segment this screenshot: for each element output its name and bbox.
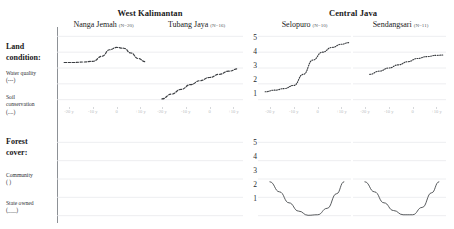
y-axis-top: 54321 <box>243 32 257 100</box>
x-axis-sendangsari: -20 y-10 y0+10 y <box>353 107 446 118</box>
panel-forest-cover-nanga-jemah <box>57 135 150 223</box>
region-heading-west-kalimantan: West Kalimantan <box>57 8 243 18</box>
y-tick-label: 2 <box>253 76 257 84</box>
row-label-land-condition: Land condition: <box>6 42 56 63</box>
x-tick-label: -10 y <box>88 110 98 115</box>
y-tick-label: 1 <box>253 91 257 99</box>
x-tick-label: 0 <box>115 110 117 115</box>
x-tick-label: -10 y <box>384 110 394 115</box>
panel-land-condition-sendangsari <box>353 30 446 106</box>
panel-plot-area <box>258 135 351 223</box>
panel-forest-cover-sendangsari <box>353 135 446 223</box>
row-label-community: Community ( ) <box>6 172 56 187</box>
y-tick-label: 5 <box>253 34 257 42</box>
x-tick-label: -10 y <box>289 110 299 115</box>
x-tick-label: -20 y <box>64 110 74 115</box>
y-tick-label: 4 <box>253 48 257 56</box>
village-sample-size: (N=20) <box>119 23 134 28</box>
x-tick-label: 0 <box>411 110 413 115</box>
x-tick-label: -10 y <box>181 110 191 115</box>
figure-small-multiples: West Kalimantan Central Java Nanga Jemah… <box>0 0 454 229</box>
village-sample-size: (N=10) <box>313 23 328 28</box>
x-tick-label: 0 <box>316 110 318 115</box>
y-tick-label: 4 <box>253 153 257 161</box>
village-name: Tubang Jaya <box>168 20 208 29</box>
x-tick-label: 0 <box>208 110 210 115</box>
x-axis-selopuro: -20 y-10 y0+10 y <box>258 107 351 118</box>
y-axis-bottom: 54321 <box>243 137 257 205</box>
row-label-water-quality: Water quality (---) <box>6 70 56 85</box>
panel-plot-area <box>57 135 150 223</box>
row-label-forest-cover: Forest cover: <box>6 137 56 158</box>
column-heading-selopuro: Selopuro (N=10) <box>258 20 351 29</box>
village-name: Selopuro <box>282 20 311 29</box>
y-tick-label: 2 <box>253 181 257 189</box>
village-sample-size: (N=11) <box>414 23 429 28</box>
village-name: Sendangsari <box>373 20 412 29</box>
series-line-solid <box>365 182 439 215</box>
x-tick-label: +10 y <box>336 110 347 115</box>
y-tick-label: 5 <box>253 139 257 147</box>
panel-forest-cover-tubang-jaya <box>150 135 243 223</box>
panel-plot-area <box>258 30 351 106</box>
x-axis-tubang-jaya: -20 y-10 y0+10 y <box>150 107 243 118</box>
x-tick-label: -20 y <box>157 110 167 115</box>
x-tick-label: +10 y <box>431 110 442 115</box>
series-line-dotted <box>265 43 348 92</box>
region-heading-central-java: Central Java <box>258 8 448 18</box>
x-tick-label: -20 y <box>265 110 275 115</box>
panel-plot-area <box>353 135 446 223</box>
village-name: Nanga Jemah <box>73 20 116 29</box>
y-tick-label: 3 <box>253 62 257 70</box>
x-tick-label: +10 y <box>228 110 239 115</box>
row-label-state-owned: State owned (___) <box>6 200 56 215</box>
column-heading-sendangsari: Sendangsari (N=11) <box>353 20 448 29</box>
series-line-solid <box>270 182 344 216</box>
series-line-dashed <box>64 47 145 62</box>
village-sample-size: (N=16) <box>210 23 225 28</box>
panel-plot-area <box>353 30 446 106</box>
panel-plot-area <box>150 135 243 223</box>
x-tick-label: -20 y <box>360 110 370 115</box>
y-tick-label: 3 <box>253 167 257 175</box>
x-tick-label: +10 y <box>135 110 146 115</box>
series-line-dotted <box>370 55 444 74</box>
panel-land-condition-nanga-jemah <box>57 30 150 106</box>
row-label-soil-conservation: Soil conservation (....) <box>6 94 56 116</box>
x-axis-nanga-jemah: -20 y-10 y0+10 y <box>57 107 150 118</box>
panel-land-condition-tubang-jaya <box>150 30 243 106</box>
panel-plot-area <box>57 30 150 106</box>
panel-land-condition-selopuro <box>258 30 351 106</box>
y-tick-label: 1 <box>253 196 257 204</box>
panel-plot-area <box>150 30 243 106</box>
column-heading-nanga-jemah: Nanga Jemah (N=20) <box>57 20 150 29</box>
column-heading-tubang-jaya: Tubang Jaya (N=16) <box>150 20 243 29</box>
panel-forest-cover-selopuro <box>258 135 351 223</box>
